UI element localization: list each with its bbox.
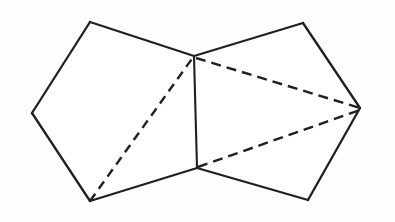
geometric-figure — [0, 0, 395, 222]
figure-canvas — [0, 0, 395, 222]
